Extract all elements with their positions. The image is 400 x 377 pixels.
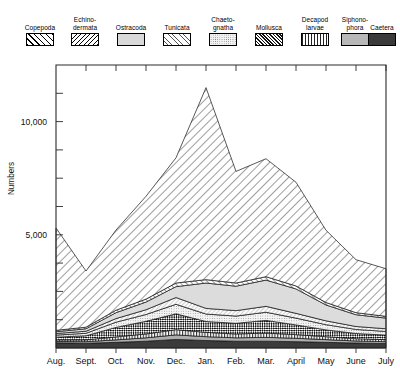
legend: Copepoda Echino- dermata Ostracoda Tunic… — [0, 0, 400, 58]
legend-label-caetera: Caetera — [365, 24, 399, 32]
chart-plot-area: 5,00010,000Aug.Sept.Oct.Nov.Dec.Jan.Feb.… — [0, 58, 400, 377]
legend-swatch-copepoda — [26, 33, 54, 46]
legend-swatch-caetera — [368, 33, 396, 46]
x-tick-label-mar: Mar. — [257, 356, 275, 366]
legend-swatch-chaetognatha — [209, 33, 237, 46]
x-tick-label-april: April — [287, 356, 305, 366]
legend-swatch-ostracoda — [117, 33, 145, 46]
legend-swatch-mollusca — [255, 33, 283, 46]
x-tick-label-aug: Aug. — [47, 356, 66, 366]
y-tick-label: 5,000 — [25, 230, 47, 240]
x-tick-label-feb: Feb. — [227, 356, 245, 366]
y-tick-label: 10,000 — [21, 117, 48, 127]
x-tick-label-dec: Dec. — [167, 356, 186, 366]
legend-swatch-echinodermata — [71, 33, 99, 46]
x-tick-label-oct: Oct. — [108, 356, 125, 366]
legend-swatch-decapod-larvae — [301, 33, 329, 46]
x-tick-label-july: July — [378, 356, 395, 366]
y-axis-title: Numbers — [7, 162, 16, 195]
chart-series-group — [56, 88, 386, 348]
x-tick-label-may: May — [317, 356, 335, 366]
x-tick-label-jan: Jan. — [197, 356, 214, 366]
legend-swatch-tunicata — [163, 33, 191, 46]
legend-item-caetera: Caetera — [365, 24, 399, 46]
x-tick-label-nov: Nov. — [137, 356, 155, 366]
stacked-area-chart: 5,00010,000Aug.Sept.Oct.Nov.Dec.Jan.Feb.… — [0, 58, 400, 377]
x-tick-label-june: June — [346, 356, 366, 366]
x-tick-label-sept: Sept. — [75, 356, 96, 366]
